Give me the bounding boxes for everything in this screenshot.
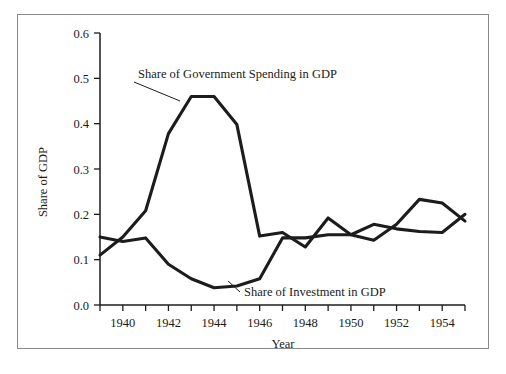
x-tick-label-group: 19401942194419461948195019521954 (110, 316, 455, 330)
x-tick-label: 1946 (247, 316, 272, 330)
series-line-investment (100, 214, 465, 287)
y-tick-label: 0.5 (73, 72, 89, 86)
annotation-leaders (134, 82, 240, 292)
series-group (100, 96, 465, 287)
y-tick-label-group: 0.00.10.20.30.40.50.6 (73, 27, 89, 313)
x-tick-label: 1942 (156, 316, 181, 330)
y-tick-group (94, 33, 100, 305)
y-tick-label: 0.6 (73, 27, 89, 41)
line-chart-plot: 0.00.10.20.30.40.50.6 194019421944194619… (0, 0, 506, 374)
x-tick-label: 1940 (110, 316, 135, 330)
x-tick-label: 1954 (430, 316, 456, 330)
x-tick-label: 1944 (202, 316, 228, 330)
x-axis-title: Year (271, 337, 295, 351)
x-tick-label: 1950 (338, 316, 363, 330)
y-tick-label: 0.2 (73, 208, 89, 222)
annotation-government-spending: Share of Government Spending in GDP (138, 67, 337, 81)
annotation-investment: Share of Investment in GDP (244, 285, 386, 299)
chart-figure: 0.00.10.20.30.40.50.6 194019421944194619… (0, 0, 506, 374)
x-tick-label: 1952 (384, 316, 409, 330)
y-tick-label: 0.1 (73, 253, 89, 267)
y-tick-label: 0.0 (73, 299, 89, 313)
leader-line-government (134, 82, 180, 101)
y-tick-label: 0.4 (73, 117, 89, 131)
y-tick-label: 0.3 (73, 163, 89, 177)
y-axis-title: Share of GDP (36, 147, 50, 217)
x-tick-group (100, 305, 465, 311)
x-tick-label: 1948 (293, 316, 318, 330)
